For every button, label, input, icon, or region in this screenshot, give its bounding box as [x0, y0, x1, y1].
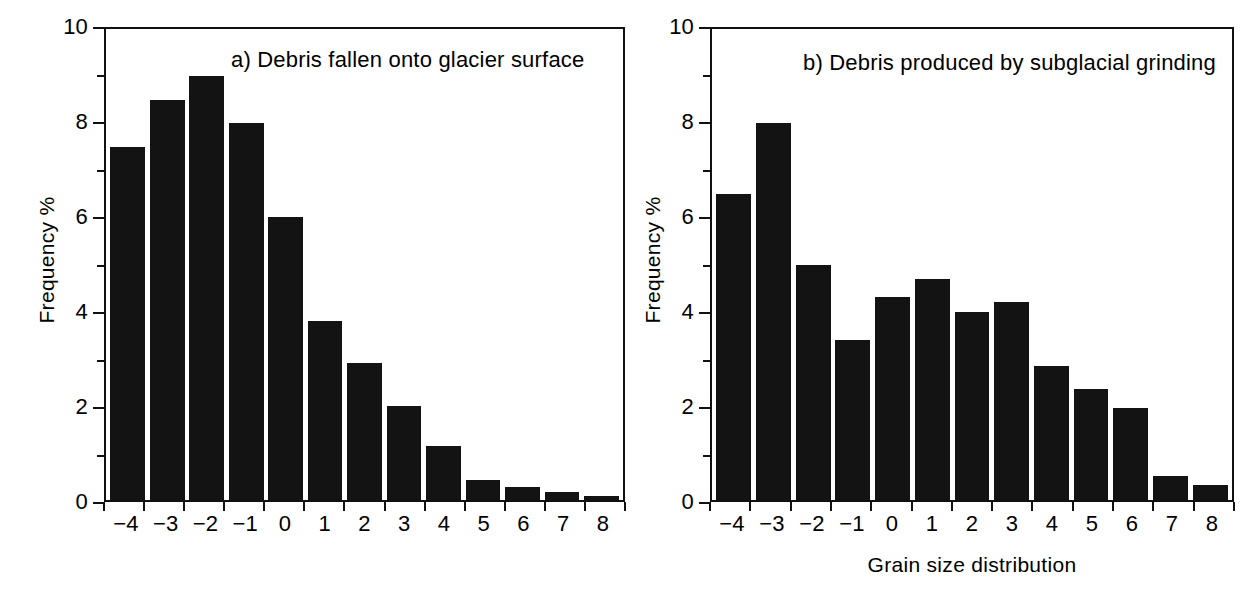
- x-tick-label: 6: [1112, 513, 1152, 535]
- bar: [1153, 476, 1188, 500]
- y-tick-major: [699, 312, 710, 314]
- x-tick: [870, 502, 872, 511]
- y-tick-minor: [703, 75, 710, 77]
- bar-slot: [226, 29, 265, 500]
- x-tick-label: 8: [1192, 513, 1232, 535]
- x-tick: [624, 502, 626, 511]
- x-tick-label: 0: [872, 513, 912, 535]
- y-tick-label: 4: [682, 301, 694, 323]
- x-tick: [103, 502, 105, 511]
- y-tick-major: [699, 122, 710, 124]
- y-tick-label: 8: [76, 111, 88, 133]
- bar-slot: [952, 29, 992, 500]
- x-tick: [504, 502, 506, 511]
- y-tick-label: 10: [669, 16, 694, 38]
- y-tick-major: [699, 407, 710, 409]
- y-tick-minor: [703, 360, 710, 362]
- x-tick-label: −1: [225, 513, 265, 535]
- x-tick: [709, 502, 711, 511]
- y-tick-major: [93, 407, 104, 409]
- y-tick-label: 10: [63, 16, 88, 38]
- bar-series-b: [714, 29, 1230, 500]
- x-tick: [749, 502, 751, 511]
- bar: [1113, 408, 1148, 500]
- x-tick: [584, 502, 586, 511]
- y-tick-major: [93, 27, 104, 29]
- x-tick-label: 3: [992, 513, 1032, 535]
- bar-slot: [542, 29, 581, 500]
- y-tick-minor: [703, 170, 710, 172]
- x-tick: [1031, 502, 1033, 511]
- x-tick-label: 5: [464, 513, 504, 535]
- plot-inner-a: [106, 29, 623, 500]
- bar-slot: [912, 29, 952, 500]
- bar-slot: [793, 29, 833, 500]
- bar: [110, 147, 145, 500]
- y-tick-label: 6: [76, 206, 88, 228]
- bar: [796, 265, 831, 501]
- bar-slot: [305, 29, 344, 500]
- bar-slot: [147, 29, 186, 500]
- x-tick: [263, 502, 265, 511]
- x-tick-label: 5: [1072, 513, 1112, 535]
- bar-slot: [345, 29, 384, 500]
- x-tick-label: 2: [952, 513, 992, 535]
- figure-container: Frequency % 0246810 −4−3−2−1012345678 a)…: [0, 0, 1259, 604]
- bar-slot: [1151, 29, 1191, 500]
- x-tick-label: −2: [792, 513, 832, 535]
- panel-title-b: b) Debris produced by subglacial grindin…: [803, 50, 1216, 76]
- chart-panel-a: Frequency % 0246810 −4−3−2−1012345678 a)…: [0, 0, 645, 604]
- x-tick: [911, 502, 913, 511]
- bar: [1074, 389, 1109, 500]
- bar: [505, 487, 540, 500]
- x-tick: [143, 502, 145, 511]
- y-tick-minor: [97, 170, 104, 172]
- plot-area-a: [104, 27, 625, 502]
- bar: [1034, 366, 1069, 500]
- bar-slot: [266, 29, 305, 500]
- x-tick-label: 0: [265, 513, 305, 535]
- bar: [268, 217, 303, 500]
- x-tick: [951, 502, 953, 511]
- bar: [387, 406, 422, 500]
- x-axis-title-b: Grain size distribution: [710, 553, 1234, 577]
- bar: [426, 446, 461, 500]
- x-tick-label: −1: [832, 513, 872, 535]
- bar: [150, 100, 185, 500]
- y-tick-label: 2: [76, 396, 88, 418]
- bar: [875, 297, 910, 500]
- bar-slot: [1190, 29, 1230, 500]
- bar-slot: [873, 29, 913, 500]
- bar-slot: [833, 29, 873, 500]
- caption-remnant: [150, 588, 1150, 600]
- bar: [347, 363, 382, 500]
- x-tick: [830, 502, 832, 511]
- x-tick-label: 1: [305, 513, 345, 535]
- bar: [1193, 485, 1228, 500]
- bar-series-a: [108, 29, 621, 500]
- bar: [545, 492, 580, 500]
- x-tick-label: 4: [1032, 513, 1072, 535]
- bar-slot: [463, 29, 502, 500]
- y-tick-minor: [97, 265, 104, 267]
- x-tick-label: 7: [1152, 513, 1192, 535]
- bar: [756, 123, 791, 500]
- x-tick: [991, 502, 993, 511]
- x-tick: [223, 502, 225, 511]
- bar-slot: [1111, 29, 1151, 500]
- bar-slot: [187, 29, 226, 500]
- x-tick: [1072, 502, 1074, 511]
- bar-slot: [992, 29, 1032, 500]
- bar-slot: [714, 29, 754, 500]
- plot-inner-b: [712, 29, 1232, 500]
- bar: [994, 302, 1029, 500]
- x-tick: [1152, 502, 1154, 511]
- x-tick: [384, 502, 386, 511]
- y-tick-major: [93, 122, 104, 124]
- x-tick: [303, 502, 305, 511]
- x-tick-label: 7: [543, 513, 583, 535]
- y-tick-label: 0: [682, 491, 694, 513]
- bar-slot: [384, 29, 423, 500]
- bar: [466, 480, 501, 500]
- x-tick-label: 6: [504, 513, 544, 535]
